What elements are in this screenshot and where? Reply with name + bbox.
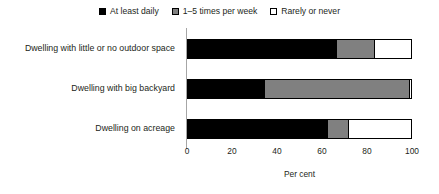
bar-segment-rarely-or-never	[409, 79, 412, 99]
x-axis-tick-labels: 0 20 40 60 80 100	[187, 147, 412, 159]
legend-item-at-least-daily: At least daily	[99, 7, 159, 16]
x-tick-100: 100	[405, 147, 419, 155]
bar-segment-1-5-times-per-week	[327, 119, 348, 139]
category-label-big-backyard: Dwelling with big backyard	[0, 84, 175, 93]
bar-segment-at-least-daily	[187, 79, 264, 99]
bar-segment-rarely-or-never	[374, 39, 412, 59]
x-tick-40: 40	[272, 147, 281, 155]
bar-segment-1-5-times-per-week	[264, 79, 409, 99]
x-tick-60: 60	[317, 147, 326, 155]
bar-segment-at-least-daily	[187, 39, 336, 59]
legend-item-rarely-or-never: Rarely or never	[270, 7, 340, 16]
bar-segment-1-5-times-per-week	[336, 39, 374, 59]
chart-legend: At least daily 1–5 times per week Rarely…	[0, 7, 439, 16]
stacked-bar-chart: At least daily 1–5 times per week Rarely…	[0, 0, 439, 194]
bar-big-backyard	[187, 79, 412, 99]
x-tick-0: 0	[185, 147, 190, 155]
black-swatch-icon	[99, 8, 106, 15]
gray-swatch-icon	[172, 8, 179, 15]
x-tick-80: 80	[362, 147, 371, 155]
legend-item-1-5-times-per-week: 1–5 times per week	[172, 7, 258, 16]
legend-label: 1–5 times per week	[183, 7, 258, 16]
category-label-little-or-no-outdoor-space: Dwelling with little or no outdoor space	[0, 44, 175, 53]
bar-segment-rarely-or-never	[348, 119, 412, 139]
plot-area	[187, 28, 412, 145]
bar-segment-at-least-daily	[187, 119, 327, 139]
category-axis-labels: Dwelling with little or no outdoor space…	[0, 28, 181, 145]
x-axis-title: Per cent	[187, 170, 412, 178]
bar-little-or-no-outdoor-space	[187, 39, 412, 59]
category-label-acreage: Dwelling on acreage	[0, 124, 175, 133]
legend-label: At least daily	[110, 7, 159, 16]
bar-acreage	[187, 119, 412, 139]
x-tick-20: 20	[227, 147, 236, 155]
white-swatch-icon	[270, 8, 277, 15]
legend-label: Rarely or never	[281, 7, 340, 16]
